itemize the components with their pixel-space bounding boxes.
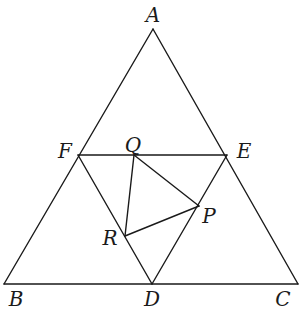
label-R: R xyxy=(101,226,117,250)
triangle-diagram: A B C D E F P Q R xyxy=(0,0,301,313)
segment-ED xyxy=(152,155,227,284)
label-C: C xyxy=(275,287,290,311)
segments xyxy=(4,29,298,284)
labels: A B C D E F P Q R xyxy=(8,3,291,311)
label-Q: Q xyxy=(125,133,141,157)
label-F: F xyxy=(57,139,73,163)
label-P: P xyxy=(201,204,216,228)
segment-QP xyxy=(134,155,199,206)
label-A: A xyxy=(144,3,160,27)
label-D: D xyxy=(143,287,160,311)
label-E: E xyxy=(236,139,252,163)
label-B: B xyxy=(8,287,24,311)
segment-RQ xyxy=(125,155,134,236)
segment-FD xyxy=(78,155,152,284)
